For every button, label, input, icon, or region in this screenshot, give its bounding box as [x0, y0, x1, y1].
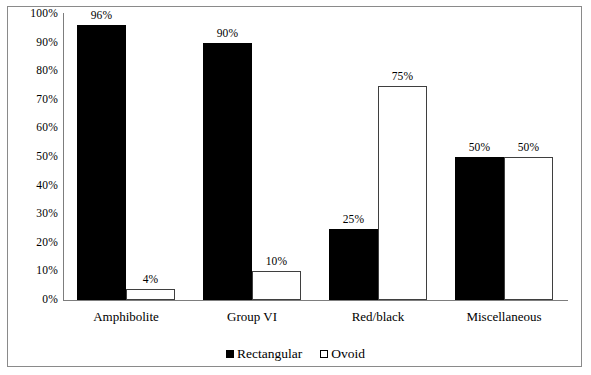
bar-value-label: 50% [455, 142, 504, 154]
y-axis-tick-label: 100% [4, 8, 58, 20]
x-axis-category-label: Red/black [315, 309, 441, 324]
y-axis-tick-label: 40% [4, 180, 58, 192]
legend-item-label: Rectangular [237, 346, 302, 361]
bar-ovoid-amphibolite [126, 289, 175, 300]
bar-ovoid-group-vi [252, 271, 301, 300]
y-axis-tick-label: 0% [4, 294, 58, 306]
plot-area: 96%4%90%10%25%75%50%50% [63, 14, 567, 300]
y-axis-tick-labels: 0%10%20%30%40%50%60%70%80%90%100% [0, 0, 58, 375]
x-axis-category-label: Group VI [189, 309, 315, 324]
bar-rectangular-amphibolite [77, 25, 126, 300]
x-axis-category-label: Amphibolite [63, 309, 189, 324]
bar-ovoid-red-black [378, 86, 427, 301]
bar-value-label: 50% [504, 142, 553, 154]
bar-rectangular-red-black [329, 229, 378, 301]
x-axis-category-label: Miscellaneous [441, 309, 567, 324]
chart-legend: RectangularOvoid [0, 346, 591, 362]
y-axis-tick-label: 60% [4, 122, 58, 134]
bar-ovoid-miscellaneous [504, 157, 553, 300]
x-axis-line [63, 300, 568, 301]
y-axis-tick-label: 80% [4, 65, 58, 77]
bar-value-label: 90% [203, 28, 252, 40]
bar-value-label: 25% [329, 214, 378, 226]
legend-item-label: Ovoid [331, 346, 365, 361]
bar-rectangular-miscellaneous [455, 157, 504, 300]
chart-figure: 0%10%20%30%40%50%60%70%80%90%100% 96%4%9… [0, 0, 591, 375]
legend-item: Ovoid [320, 346, 365, 362]
y-axis-tick-label: 50% [4, 151, 58, 163]
bar-rectangular-group-vi [203, 43, 252, 300]
y-axis-tick-label: 90% [4, 37, 58, 49]
y-axis-tick-label: 70% [4, 94, 58, 106]
y-axis-tick-label: 30% [4, 208, 58, 220]
bar-value-label: 10% [252, 256, 301, 268]
bar-value-label: 96% [77, 10, 126, 22]
y-axis-tick-label: 10% [4, 265, 58, 277]
bar-value-label: 75% [378, 71, 427, 83]
bar-value-label: 4% [126, 274, 175, 286]
filled-square-icon [226, 350, 234, 358]
legend-item: Rectangular [226, 346, 302, 362]
y-axis-tick-label: 20% [4, 237, 58, 249]
outlined-square-icon [320, 350, 328, 358]
